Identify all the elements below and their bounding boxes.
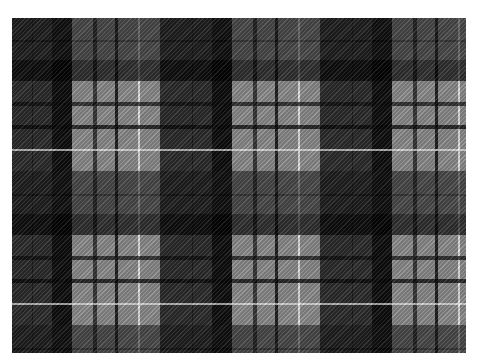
image-canvas [0,0,481,363]
twill-weave-texture [12,18,466,353]
tartan-plaid-fabric [12,18,466,353]
